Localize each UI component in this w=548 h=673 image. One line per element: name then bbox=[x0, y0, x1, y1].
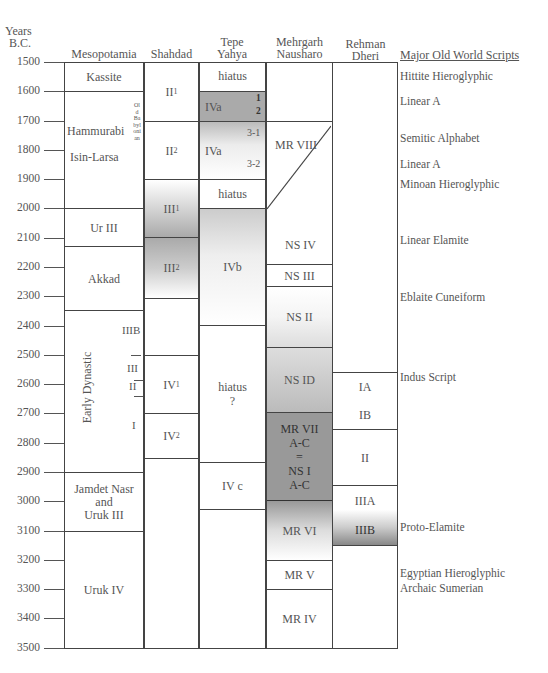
subscript: 2 bbox=[176, 429, 180, 443]
script-label: Archaic Sumerian bbox=[400, 582, 483, 594]
label-mr-vii: MR VII bbox=[280, 422, 318, 436]
label-a-c: A-C bbox=[289, 478, 310, 492]
period-shahdad-iv1: IV1 bbox=[145, 355, 198, 413]
tick-mark bbox=[44, 208, 64, 209]
tick-label: 3400 bbox=[2, 611, 40, 623]
script-label: Hittite Hieroglyphic bbox=[400, 70, 493, 82]
script-label: Linear Elamite bbox=[400, 234, 469, 246]
script-label: Egyptian Hieroglyphic bbox=[400, 567, 505, 579]
period-tepe-blank bbox=[200, 509, 265, 649]
label-ib: IB bbox=[359, 408, 371, 422]
header-tepe-line2: Yahya bbox=[199, 48, 265, 60]
period-shahdad-iii2: III2 bbox=[145, 237, 198, 298]
period-shahdad-ii1: II1 bbox=[145, 62, 198, 121]
label-ed-i: I bbox=[132, 419, 136, 431]
tick-mark bbox=[44, 531, 64, 532]
period-ns-id: NS ID bbox=[267, 347, 332, 412]
label-hammurabi: Hammurabi bbox=[65, 124, 124, 138]
label-old-babylonian: Old Babylonian bbox=[133, 102, 141, 141]
tick-label: 2800 bbox=[2, 436, 40, 448]
tick-label: 3000 bbox=[2, 494, 40, 506]
tick-label: 2500 bbox=[2, 348, 40, 360]
period-tepe-ivc: IV c bbox=[200, 462, 265, 509]
header-rehman-line2: Dheri bbox=[333, 50, 398, 62]
label: II bbox=[166, 144, 174, 158]
subscript: 2 bbox=[174, 144, 178, 158]
period-mr-vi: MR VI bbox=[267, 500, 332, 560]
header-shahdad: Shahdad bbox=[144, 48, 199, 60]
script-label: Semitic Alphabet bbox=[400, 132, 480, 144]
period-rehman-iiia-iiib: IIIA IIIB bbox=[333, 485, 397, 545]
period-rehman-ia-ib: IA IB bbox=[333, 372, 397, 429]
header-tepe-yahya: Tepe Yahya bbox=[199, 36, 265, 60]
period-tepe-hiatus-question: hiatus ? bbox=[200, 325, 265, 462]
tick-mark bbox=[44, 384, 64, 385]
period-ns-iii: NS III bbox=[267, 264, 332, 286]
tick-mark bbox=[44, 238, 64, 239]
period-mr-iv: MR IV bbox=[267, 589, 332, 649]
label: III bbox=[164, 261, 176, 275]
tick-label: 3200 bbox=[2, 553, 40, 565]
period-shahdad-ii2: II2 bbox=[145, 121, 198, 179]
label-early-dynastic-wrap: Early Dynastic bbox=[63, 332, 113, 442]
tick-mark bbox=[44, 648, 64, 649]
label-ed-iii: III bbox=[127, 362, 138, 374]
header-major-scripts: Major Old World Scripts bbox=[400, 48, 519, 63]
label-uruk-iii: Uruk III bbox=[84, 509, 124, 522]
label-a-c: A-C bbox=[289, 436, 310, 450]
period-kassite: Kassite bbox=[65, 62, 143, 91]
label-ns-i: NS I bbox=[288, 464, 310, 478]
tick-mark bbox=[44, 296, 64, 297]
tick-mark bbox=[44, 501, 64, 502]
period-hammurabi-isin-larsa: Hammurabi Isin-Larsa bbox=[65, 91, 143, 208]
y-axis-title-line2: B.C. bbox=[5, 37, 32, 49]
tick-label: 1500 bbox=[2, 55, 40, 67]
label-and: and bbox=[95, 496, 112, 509]
tick-label: 1800 bbox=[2, 143, 40, 155]
tick-mark bbox=[44, 443, 64, 444]
ed-divider bbox=[131, 355, 141, 356]
subscript: 2 bbox=[176, 261, 180, 275]
tick-label: 1600 bbox=[2, 84, 40, 96]
period-shahdad-blank bbox=[145, 298, 198, 355]
period-tepe-hiatus: hiatus bbox=[200, 62, 265, 91]
label: IV bbox=[163, 378, 176, 392]
tick-label: 2600 bbox=[2, 377, 40, 389]
tick-mark bbox=[44, 326, 64, 327]
header-mehrgarh-nausharo: Mehrgarh Nausharo bbox=[266, 36, 333, 60]
period-mehrgarh-blank bbox=[267, 62, 332, 121]
label-mr-viii: MR VIII bbox=[275, 138, 317, 153]
tick-mark bbox=[44, 179, 64, 180]
subscript: 1 bbox=[174, 85, 178, 99]
period-akkad: Akkad bbox=[65, 246, 143, 310]
label-equals: = bbox=[296, 450, 303, 464]
period-tepe-hiatus: hiatus bbox=[200, 179, 265, 208]
label-isin-larsa: Isin-Larsa bbox=[65, 150, 119, 164]
label-iiib: IIIB bbox=[355, 523, 375, 537]
script-label: Indus Script bbox=[400, 371, 456, 383]
period-rehman-blank bbox=[333, 62, 397, 372]
tick-mark bbox=[44, 589, 64, 590]
tick-mark bbox=[44, 355, 64, 356]
tick-mark bbox=[44, 618, 64, 619]
label-ed-iiib: IIIB bbox=[122, 324, 140, 336]
tick-label: 2400 bbox=[2, 319, 40, 331]
header-mesopotamia: Mesopotamia bbox=[64, 48, 144, 60]
label-iva-1: 1 bbox=[256, 93, 261, 103]
label-early-dynastic: Early Dynastic bbox=[81, 351, 96, 423]
tick-mark bbox=[44, 472, 64, 473]
column-rehman-dheri: IA IB II IIIA IIIB bbox=[333, 62, 398, 649]
period-ur-iii: Ur III bbox=[65, 208, 143, 246]
period-mr-vii-ns-i: MR VII A-C = NS I A-C bbox=[267, 412, 332, 500]
tick-mark bbox=[44, 62, 64, 63]
label: II bbox=[166, 85, 174, 99]
period-shahdad-blank bbox=[145, 458, 198, 649]
column-mesopotamia: Kassite Hammurabi Isin-Larsa Old Babylon… bbox=[64, 62, 144, 649]
period-uruk-iv: Uruk IV bbox=[65, 531, 143, 649]
header-mehrgarh-line2: Nausharo bbox=[266, 48, 333, 60]
label-ia: IA bbox=[359, 380, 372, 394]
script-label: Linear A bbox=[400, 158, 441, 170]
tick-label: 3300 bbox=[2, 582, 40, 594]
column-mehrgarh-nausharo: MR VIII NS IV NS III NS II NS ID MR VII … bbox=[266, 62, 333, 649]
column-shahdad: II1 II2 III1 III2 IV1 IV2 bbox=[144, 62, 199, 649]
